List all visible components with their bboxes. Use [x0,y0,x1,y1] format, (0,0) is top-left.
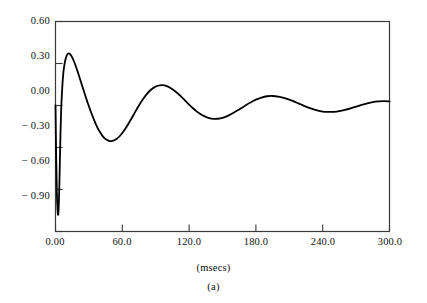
x-axis-ticks [56,225,390,232]
plot-frame [56,22,390,232]
x-tick-label-1: 60.0 [92,236,152,247]
plot-area [0,0,427,303]
chart-figure: 0.60 0.30 0.00 − 0.30 − 0.60 − 0.90 0.00… [0,0,427,303]
data-series-line [56,53,390,214]
x-tick-label-4: 240.0 [293,236,353,247]
y-tick-label-2: 0.00 [0,85,50,96]
x-axis-title: (msecs) [0,262,427,273]
y-tick-label-3: − 0.30 [0,120,50,131]
y-tick-label-1: 0.30 [0,50,50,61]
y-tick-label-0: 0.60 [0,15,50,26]
x-tick-label-0: 0.00 [25,236,85,247]
panel-caption: (a) [0,281,427,292]
y-tick-label-5: − 0.90 [0,190,50,201]
x-tick-label-3: 180.0 [226,236,286,247]
x-tick-label-2: 120.0 [159,236,219,247]
x-tick-label-5: 300.0 [360,236,420,247]
y-tick-label-4: − 0.60 [0,155,50,166]
